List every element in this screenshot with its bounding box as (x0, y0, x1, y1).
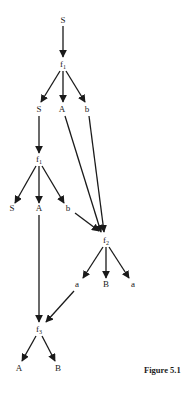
node-subscript: 3 (39, 329, 42, 335)
edge-arrow (46, 291, 74, 322)
graph-node: S (60, 15, 65, 25)
graph-node: B (103, 279, 109, 289)
graph-node: a (131, 279, 135, 289)
edge-arrow (42, 336, 55, 361)
graph-node: S (9, 203, 14, 213)
graph-node: f3 (36, 324, 42, 335)
edge-arrow (109, 247, 129, 278)
nodes-group: Sf1SAbf1SAbf2aBaf3AB (9, 15, 135, 373)
graph-node: f2 (103, 235, 109, 246)
graph-node: f1 (36, 154, 42, 165)
graph-node: a (75, 279, 79, 289)
graph-node: A (59, 104, 66, 114)
edges-group (15, 26, 129, 361)
edge-arrow (41, 71, 60, 102)
edge-arrow (22, 336, 36, 361)
edge-arrow (83, 247, 103, 278)
edge-arrow (65, 116, 101, 232)
edge-arrow (66, 71, 85, 102)
figure-caption: Figure 5.1 (144, 365, 181, 375)
graph-node: b (66, 203, 71, 213)
graph-node: f1 (60, 59, 66, 70)
graph-node: S (36, 104, 41, 114)
derivation-graph: Sf1SAbf1SAbf2aBaf3AB Figure 5.1 (0, 0, 195, 396)
node-subscript: 1 (63, 64, 66, 70)
edge-arrow (42, 166, 64, 203)
graph-node: A (16, 363, 23, 373)
node-subscript: 2 (106, 240, 109, 246)
graph-node: B (55, 363, 61, 373)
node-subscript: 1 (39, 159, 42, 165)
graph-node: A (36, 203, 43, 213)
graph-node: b (85, 104, 90, 114)
edge-arrow (89, 116, 104, 232)
edge-arrow (15, 166, 36, 203)
